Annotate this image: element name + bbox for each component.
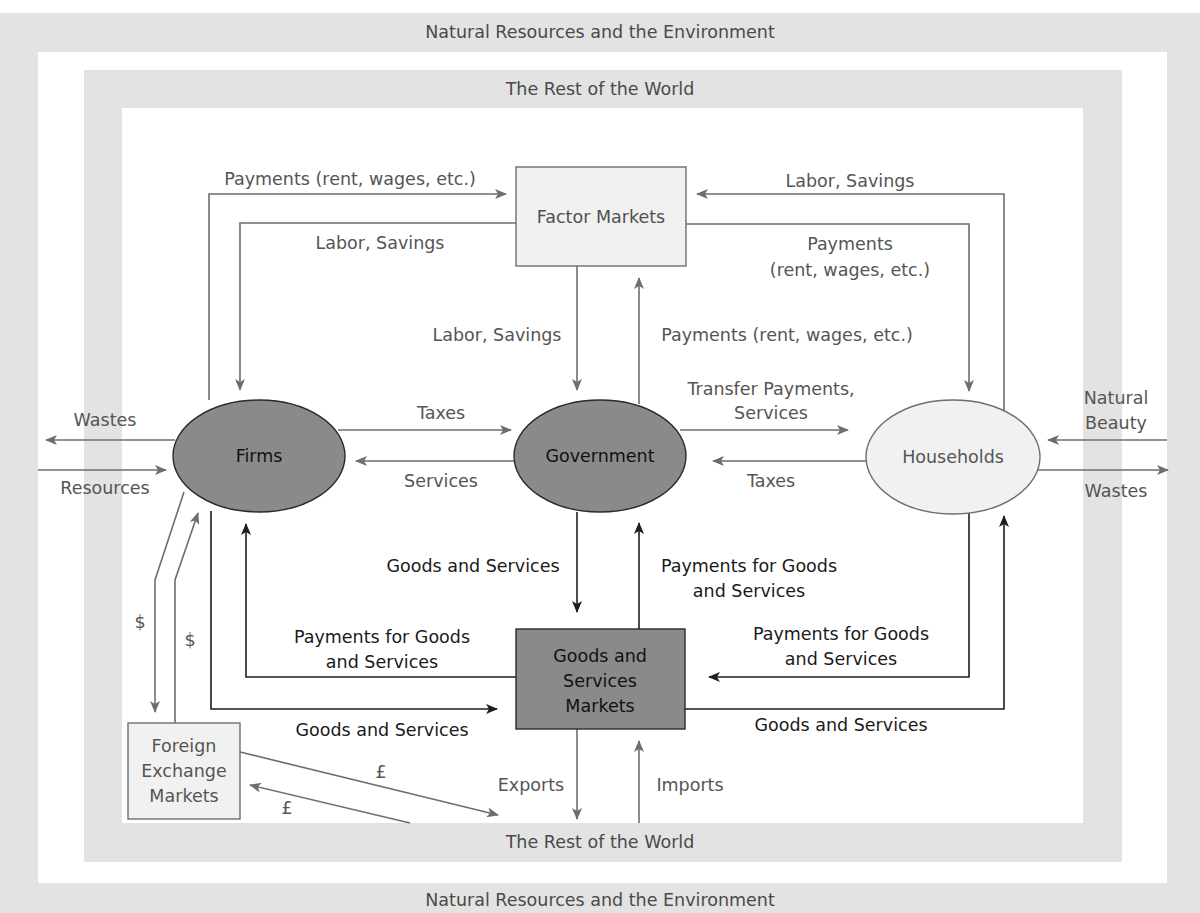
arrow-firms-to-goods bbox=[211, 511, 497, 709]
label-gov-to-goods: Goods and Services bbox=[386, 556, 559, 576]
label-transfers-1: Transfer Payments, bbox=[686, 379, 854, 399]
arrow-firms-dollar-in bbox=[175, 513, 198, 723]
fx-label-line2: Exchange bbox=[141, 761, 227, 781]
label-natural-beauty-2: Beauty bbox=[1085, 413, 1147, 433]
arrow-pound-in bbox=[250, 785, 410, 823]
circular-flow-diagram: Natural Resources and the Environment Th… bbox=[0, 0, 1200, 913]
label-resources: Resources bbox=[60, 478, 149, 498]
label-factor-to-firms-labor: Labor, Savings bbox=[316, 233, 445, 253]
inner-title-top: The Rest of the World bbox=[505, 79, 695, 99]
label-firms-to-factor-payments: Payments (rent, wages, etc.) bbox=[224, 169, 476, 189]
label-households-to-gov-taxes: Taxes bbox=[746, 471, 795, 491]
firms-label: Firms bbox=[236, 446, 283, 466]
label-factor-to-households-payments-2: (rent, wages, etc.) bbox=[770, 260, 930, 280]
arrow-pound-out bbox=[240, 752, 498, 815]
goods-markets-label-line3: Markets bbox=[565, 696, 634, 716]
label-pound-in: £ bbox=[281, 798, 292, 818]
label-dollar-out: $ bbox=[134, 612, 145, 632]
label-exports: Exports bbox=[498, 775, 564, 795]
fx-label-line1: Foreign bbox=[152, 736, 217, 756]
households-node: Households bbox=[866, 400, 1040, 514]
fx-label-line3: Markets bbox=[149, 786, 218, 806]
label-firms-wastes: Wastes bbox=[74, 410, 137, 430]
label-goods-to-gov-payments-2: and Services bbox=[693, 581, 805, 601]
factor-markets-label: Factor Markets bbox=[537, 207, 665, 227]
outer-title-bottom: Natural Resources and the Environment bbox=[425, 890, 775, 910]
arrow-goods-to-households bbox=[684, 516, 1004, 709]
label-dollar-in: $ bbox=[184, 630, 195, 650]
households-label: Households bbox=[902, 447, 1004, 467]
foreign-exchange-markets-node: Foreign Exchange Markets bbox=[128, 723, 240, 819]
label-goods-to-households: Goods and Services bbox=[754, 715, 927, 735]
label-households-wastes: Wastes bbox=[1085, 481, 1148, 501]
label-transfers-2: Services bbox=[734, 403, 808, 423]
factor-markets-node: Factor Markets bbox=[516, 167, 686, 266]
inner-title-bottom: The Rest of the World bbox=[505, 832, 695, 852]
goods-markets-label-line1: Goods and bbox=[553, 646, 647, 666]
label-gov-to-firms-services: Services bbox=[404, 471, 478, 491]
label-factor-to-households-payments-1: Payments bbox=[807, 234, 893, 254]
firms-node: Firms bbox=[173, 400, 345, 512]
goods-markets-label-line2: Services bbox=[563, 671, 637, 691]
label-households-to-factor-labor: Labor, Savings bbox=[786, 171, 915, 191]
label-firms-to-goods: Goods and Services bbox=[295, 720, 468, 740]
label-households-to-goods-payments-1: Payments for Goods bbox=[753, 624, 929, 644]
government-label: Government bbox=[545, 446, 654, 466]
label-factor-to-gov-labor: Labor, Savings bbox=[433, 325, 562, 345]
label-imports: Imports bbox=[656, 775, 723, 795]
arrow-firms-dollar-out bbox=[155, 492, 184, 712]
label-goods-to-firms-payments-1: Payments for Goods bbox=[294, 627, 470, 647]
label-natural-beauty-1: Natural bbox=[1084, 388, 1149, 408]
label-gov-to-factor-payments: Payments (rent, wages, etc.) bbox=[661, 325, 913, 345]
goods-services-markets-node: Goods and Services Markets bbox=[516, 629, 685, 729]
arrow-firms-to-factor-payments bbox=[209, 194, 506, 400]
label-households-to-goods-payments-2: and Services bbox=[785, 649, 897, 669]
label-pound-out: £ bbox=[375, 762, 386, 782]
label-firms-to-gov-taxes: Taxes bbox=[416, 403, 465, 423]
government-node: Government bbox=[514, 400, 686, 512]
label-goods-to-firms-payments-2: and Services bbox=[326, 652, 438, 672]
outer-title-top: Natural Resources and the Environment bbox=[425, 22, 775, 42]
label-goods-to-gov-payments-1: Payments for Goods bbox=[661, 556, 837, 576]
